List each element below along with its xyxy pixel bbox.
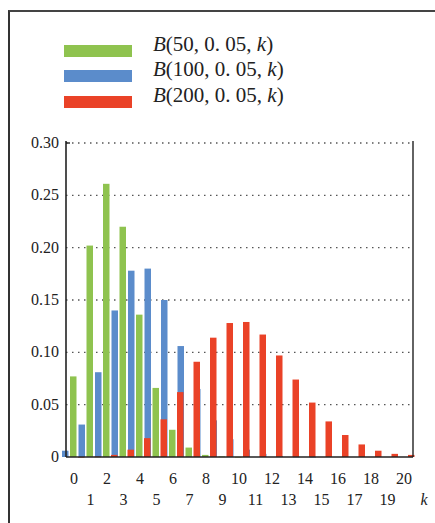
bar bbox=[128, 450, 135, 457]
x-tick-label: 10 bbox=[231, 470, 247, 487]
x-tick-label: 2 bbox=[103, 470, 111, 487]
bar bbox=[95, 372, 102, 457]
bar bbox=[128, 271, 135, 457]
x-tick-label: 20 bbox=[396, 470, 412, 487]
bar bbox=[359, 444, 366, 457]
bar bbox=[177, 392, 184, 457]
y-tick-label: 0.10 bbox=[31, 343, 59, 360]
bar bbox=[276, 355, 283, 457]
bar bbox=[227, 323, 234, 457]
bar bbox=[87, 246, 94, 457]
bar bbox=[186, 448, 193, 457]
bar bbox=[70, 376, 77, 457]
x-tick-label: 1 bbox=[87, 491, 95, 508]
x-tick-label: 17 bbox=[347, 491, 363, 508]
y-tick-label: 0.25 bbox=[31, 186, 59, 203]
y-tick-label: 0.15 bbox=[31, 291, 59, 308]
bar bbox=[243, 322, 250, 457]
y-tick-label: 0 bbox=[51, 448, 59, 465]
bar bbox=[112, 310, 119, 457]
x-tick-label: 4 bbox=[136, 470, 144, 487]
bar bbox=[136, 315, 143, 457]
bar bbox=[79, 425, 86, 457]
x-tick-label: 6 bbox=[169, 470, 177, 487]
bar bbox=[161, 419, 168, 457]
x-tick-label: 8 bbox=[202, 470, 210, 487]
x-tick-label: 12 bbox=[264, 470, 280, 487]
x-tick-label: 5 bbox=[153, 491, 161, 508]
y-tick-label: 0.30 bbox=[31, 134, 59, 151]
bar bbox=[375, 451, 382, 457]
bar bbox=[194, 362, 201, 457]
x-tick-label: 16 bbox=[330, 470, 346, 487]
bar-chart: 00.050.100.150.200.250.30024681012141618… bbox=[0, 0, 435, 523]
y-tick-label: 0.05 bbox=[31, 396, 59, 413]
bar bbox=[144, 438, 151, 457]
x-tick-label: 9 bbox=[219, 491, 227, 508]
bar bbox=[309, 403, 316, 457]
x-tick-label: 3 bbox=[120, 491, 128, 508]
x-tick-label: 19 bbox=[380, 491, 396, 508]
x-tick-label: 11 bbox=[248, 491, 263, 508]
bar bbox=[293, 380, 300, 457]
x-tick-label: 7 bbox=[186, 491, 194, 508]
bar bbox=[260, 335, 267, 457]
y-tick-label: 0.20 bbox=[31, 239, 59, 256]
x-tick-label: 18 bbox=[363, 470, 379, 487]
x-axis-label: k bbox=[420, 491, 428, 508]
bar bbox=[153, 388, 160, 457]
x-tick-label: 14 bbox=[297, 470, 313, 487]
bar bbox=[120, 227, 127, 457]
x-tick-label: 0 bbox=[70, 470, 78, 487]
bar bbox=[342, 435, 349, 457]
x-tick-label: 13 bbox=[281, 491, 297, 508]
bar bbox=[145, 269, 152, 457]
bar bbox=[169, 430, 176, 457]
x-tick-label: 15 bbox=[314, 491, 330, 508]
bar bbox=[103, 184, 110, 457]
bar bbox=[326, 421, 333, 457]
bar bbox=[210, 338, 217, 457]
